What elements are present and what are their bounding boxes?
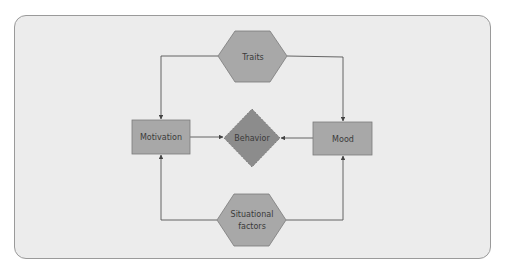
edge-situational-mood <box>286 156 343 220</box>
edge-traits-mood <box>287 56 343 121</box>
motivation-label: Motivation <box>140 132 182 143</box>
behavior-label: Behavior <box>234 133 270 144</box>
edge-situational-motivation <box>161 155 217 220</box>
edge-traits-motivation <box>161 56 218 119</box>
mood-label: Mood <box>332 134 354 145</box>
traits-label: Traits <box>242 52 263 63</box>
situational-label-line2: factors <box>238 221 266 232</box>
situational-label-line1: Situational <box>231 209 274 220</box>
